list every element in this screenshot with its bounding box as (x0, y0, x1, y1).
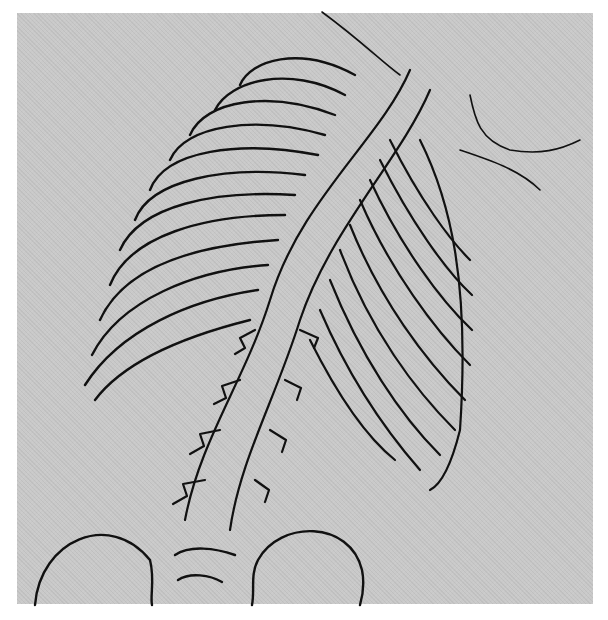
right-ribs (310, 140, 472, 490)
pelvis (35, 531, 363, 605)
shoulder-lines (322, 12, 580, 190)
spine-illustration (0, 0, 608, 620)
